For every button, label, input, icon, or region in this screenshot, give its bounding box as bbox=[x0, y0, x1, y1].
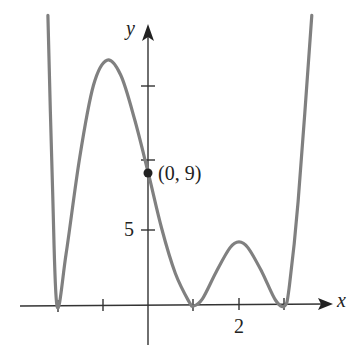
x-axis-label: x bbox=[337, 290, 346, 310]
y-intercept-point bbox=[144, 169, 153, 178]
y-axis-label: y bbox=[126, 18, 135, 38]
point-label: (0, 9) bbox=[158, 163, 201, 183]
y-tick-label-5: 5 bbox=[124, 219, 134, 239]
x-tick-label-2: 2 bbox=[234, 316, 244, 336]
